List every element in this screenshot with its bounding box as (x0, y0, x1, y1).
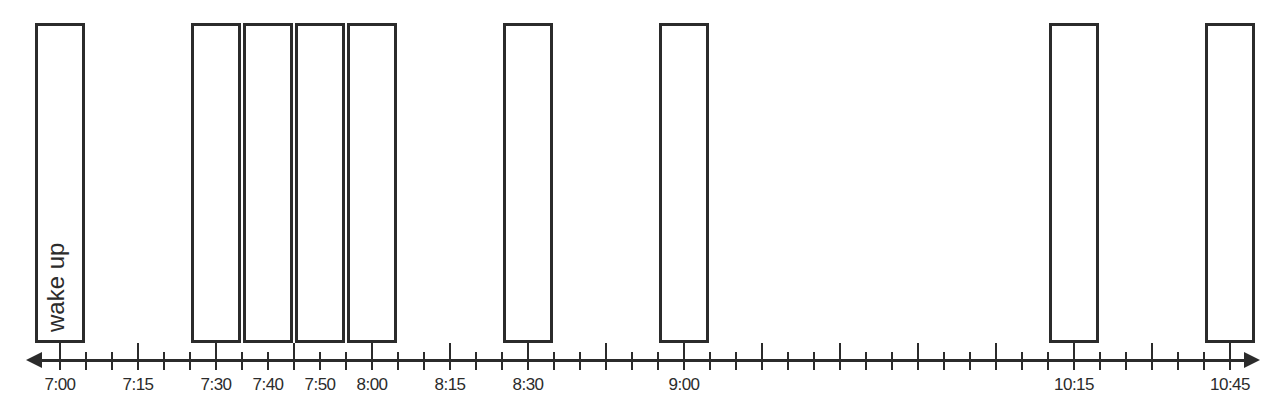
axis-tick (761, 343, 763, 370)
axis-tick (1177, 352, 1179, 370)
axis-tick (1099, 352, 1101, 370)
axis-tick (293, 343, 295, 370)
event-box (295, 23, 345, 343)
axis-tick (449, 343, 451, 370)
arrow-right-icon (1244, 352, 1260, 368)
axis-tick (319, 352, 321, 370)
axis-tick (475, 352, 477, 370)
axis-tick (527, 343, 529, 370)
axis-tick (709, 352, 711, 370)
axis-tick (969, 352, 971, 370)
axis-tick (1047, 352, 1049, 370)
axis-tick (1073, 343, 1075, 370)
axis-label: 7:40 (252, 375, 283, 395)
axis-tick (1021, 352, 1023, 370)
event-box (1205, 23, 1255, 343)
axis-tick (995, 343, 997, 370)
axis-tick (735, 352, 737, 370)
axis-label: 7:00 (44, 375, 75, 395)
axis-tick (553, 352, 555, 370)
time-axis (40, 359, 1244, 362)
axis-tick (215, 343, 217, 370)
axis-tick (943, 352, 945, 370)
axis-tick (423, 352, 425, 370)
axis-tick (813, 352, 815, 370)
axis-tick (657, 352, 659, 370)
axis-tick (605, 343, 607, 370)
axis-label: 7:50 (304, 375, 335, 395)
axis-tick (241, 352, 243, 370)
axis-tick (189, 352, 191, 370)
axis-label: 10:15 (1054, 375, 1094, 395)
event-box (191, 23, 241, 343)
axis-tick (85, 352, 87, 370)
axis-label: 7:15 (122, 375, 153, 395)
axis-tick (1151, 343, 1153, 370)
arrow-left-icon (26, 352, 42, 368)
axis-tick (371, 343, 373, 370)
event-box (659, 23, 709, 343)
event-box (243, 23, 293, 343)
axis-tick (345, 352, 347, 370)
axis-tick (787, 352, 789, 370)
axis-tick (137, 343, 139, 370)
axis-tick (839, 343, 841, 370)
event-box (1049, 23, 1099, 343)
axis-tick (683, 343, 685, 370)
axis-tick (111, 352, 113, 370)
axis-tick (1125, 352, 1127, 370)
axis-tick (501, 352, 503, 370)
axis-label: 10:45 (1210, 375, 1250, 395)
axis-tick (917, 343, 919, 370)
axis-tick (59, 343, 61, 370)
event-label: wake up (42, 243, 70, 332)
axis-tick (1203, 352, 1205, 370)
axis-tick (397, 352, 399, 370)
event-box (503, 23, 553, 343)
axis-tick (267, 352, 269, 370)
axis-label: 8:00 (356, 375, 387, 395)
axis-label: 7:30 (200, 375, 231, 395)
axis-label: 9:00 (668, 375, 699, 395)
axis-tick (865, 352, 867, 370)
axis-tick (631, 352, 633, 370)
event-box: wake up (35, 23, 85, 343)
axis-tick (163, 352, 165, 370)
axis-label: 8:30 (512, 375, 543, 395)
axis-label: 8:15 (434, 375, 465, 395)
event-box (347, 23, 397, 343)
axis-tick (891, 352, 893, 370)
axis-tick (579, 352, 581, 370)
axis-tick (1229, 343, 1231, 370)
